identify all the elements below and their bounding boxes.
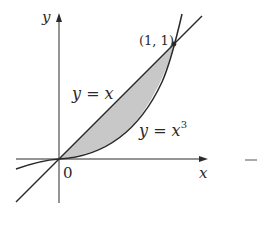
cubic-equation-exponent: 3 <box>181 119 187 130</box>
region-between-curves-diagram: y x 0 (1, 1) y = x y = x3 <box>0 0 257 242</box>
y-axis-label: y <box>41 8 51 26</box>
cubic-equation-label: y = x3 <box>138 119 187 140</box>
cubic-equation-base: y = x <box>138 121 181 140</box>
x-axis-arrow-icon <box>199 156 208 162</box>
y-axis-arrow-icon <box>56 13 62 22</box>
intersection-label: (1, 1) <box>139 33 174 48</box>
origin-label: 0 <box>63 164 73 182</box>
x-axis-label: x <box>199 164 208 182</box>
line-equation-label: y = x <box>71 84 114 103</box>
